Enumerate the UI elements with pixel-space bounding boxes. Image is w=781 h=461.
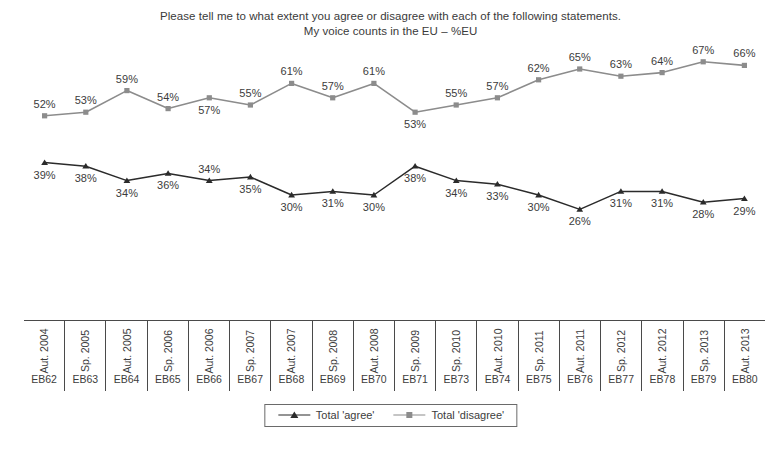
data-label: 38% xyxy=(75,172,97,184)
x-axis-wave-label: Sp. 2005 xyxy=(79,325,91,377)
data-point-marker xyxy=(165,170,172,176)
x-axis-eb-code: EB66 xyxy=(189,373,229,385)
x-axis-wave-label: Aut. 2004 xyxy=(38,325,50,377)
data-label: 65% xyxy=(569,51,591,63)
x-axis-eb-code: EB69 xyxy=(313,373,353,385)
data-label: 62% xyxy=(527,62,549,74)
x-axis-wave-label: Aut. 2005 xyxy=(121,325,133,377)
x-axis-eb-code: EB80 xyxy=(725,373,765,385)
data-label: 59% xyxy=(116,73,138,85)
data-label: 54% xyxy=(157,91,179,103)
legend-key-square-icon xyxy=(392,410,426,420)
data-point-marker xyxy=(248,102,253,107)
x-axis-column: Sp. 2012EB77 xyxy=(600,321,641,391)
data-point-marker xyxy=(83,110,88,115)
data-label: 31% xyxy=(610,197,632,209)
x-axis-column: Sp. 2010EB73 xyxy=(435,321,476,391)
data-label: 53% xyxy=(75,94,97,106)
data-label: 63% xyxy=(610,58,632,70)
data-point-marker xyxy=(660,70,665,75)
plot-area: 39%38%34%36%34%35%30%31%30%38%34%33%30%2… xyxy=(0,0,781,320)
chart-legend: Total 'agree' Total 'disagree' xyxy=(264,404,517,427)
data-label: 31% xyxy=(651,197,673,209)
x-axis-wave-label: Sp. 2012 xyxy=(615,325,627,377)
legend-item-agree[interactable]: Total 'agree' xyxy=(277,409,375,421)
series-line-agree xyxy=(45,163,745,210)
x-axis-wave-label: Aut. 2007 xyxy=(285,325,297,377)
x-axis-eb-code: EB75 xyxy=(519,373,559,385)
data-point-marker xyxy=(371,81,376,86)
x-axis-wave-label: Sp. 2006 xyxy=(162,325,174,377)
data-label: 34% xyxy=(198,163,220,175)
data-point-marker xyxy=(413,110,418,115)
x-axis-column: Sp. 2005EB63 xyxy=(64,321,105,391)
x-axis-column: Aut. 2005EB64 xyxy=(105,321,146,391)
data-label: 64% xyxy=(651,55,673,67)
x-axis-column: Sp. 2007EB67 xyxy=(229,321,270,391)
data-label: 38% xyxy=(404,172,426,184)
x-axis-eb-code: EB64 xyxy=(106,373,146,385)
x-axis-eb-code: EB67 xyxy=(230,373,270,385)
data-point-marker xyxy=(536,77,541,82)
x-axis-wave-label: Sp. 2011 xyxy=(533,325,545,377)
x-axis-eb-code: EB62 xyxy=(24,373,64,385)
data-label: 30% xyxy=(280,201,302,213)
data-point-marker xyxy=(330,95,335,100)
legend-key-triangle-icon xyxy=(277,410,311,420)
x-axis-eb-code: EB71 xyxy=(395,373,435,385)
x-axis-eb-code: EB73 xyxy=(436,373,476,385)
data-label: 36% xyxy=(157,179,179,191)
data-label: 34% xyxy=(116,187,138,199)
series-line-disagree xyxy=(45,62,745,116)
data-label: 30% xyxy=(363,201,385,213)
chart-container: Please tell me to what extent you agree … xyxy=(0,0,781,461)
data-label: 55% xyxy=(445,87,467,99)
data-point-marker xyxy=(289,81,294,86)
data-label: 57% xyxy=(486,80,508,92)
x-axis-eb-code: EB68 xyxy=(271,373,311,385)
x-axis-eb-code: EB79 xyxy=(684,373,724,385)
x-axis-column: Aut. 2013EB80 xyxy=(724,321,765,391)
data-label: 39% xyxy=(33,169,55,181)
data-label: 34% xyxy=(445,187,467,199)
data-label: 31% xyxy=(322,197,344,209)
legend-label-agree: Total 'agree' xyxy=(316,409,375,421)
data-point-marker xyxy=(618,74,623,79)
data-point-marker xyxy=(42,113,47,118)
x-axis-wave-label: Aut. 2010 xyxy=(492,325,504,377)
data-label: 61% xyxy=(363,65,385,77)
x-axis-eb-code: EB63 xyxy=(65,373,105,385)
data-point-marker xyxy=(495,95,500,100)
data-label: 66% xyxy=(733,47,755,59)
x-axis-wave-label: Aut. 2006 xyxy=(203,325,215,377)
x-axis-eb-code: EB65 xyxy=(148,373,188,385)
x-axis-column: Aut. 2006EB66 xyxy=(188,321,229,391)
data-label: 52% xyxy=(33,98,55,110)
x-axis-column: Aut. 2011EB76 xyxy=(559,321,600,391)
data-label: 35% xyxy=(239,183,261,195)
data-label: 61% xyxy=(280,65,302,77)
x-axis-column: Sp. 2013EB79 xyxy=(683,321,724,391)
data-label: 33% xyxy=(486,190,508,202)
data-point-marker xyxy=(742,63,747,68)
legend-item-disagree[interactable]: Total 'disagree' xyxy=(392,409,504,421)
x-axis-column: Sp. 2011EB75 xyxy=(518,321,559,391)
x-axis-column: Sp. 2006EB65 xyxy=(147,321,188,391)
legend-label-disagree: Total 'disagree' xyxy=(431,409,504,421)
x-axis-wave-label: Aut. 2013 xyxy=(739,325,751,377)
data-label: 57% xyxy=(322,80,344,92)
x-axis-column: Sp. 2008EB69 xyxy=(312,321,353,391)
x-axis-column: Sp. 2009EB71 xyxy=(394,321,435,391)
x-axis-column: Aut. 2010EB74 xyxy=(476,321,517,391)
x-axis-column: Aut. 2004EB62 xyxy=(24,321,64,391)
data-point-marker xyxy=(454,102,459,107)
x-axis-table: Aut. 2004EB62Sp. 2005EB63Aut. 2005EB64Sp… xyxy=(24,320,765,390)
data-point-marker xyxy=(412,163,419,169)
data-label: 67% xyxy=(692,44,714,56)
data-label: 30% xyxy=(527,201,549,213)
data-point-marker xyxy=(207,95,212,100)
x-axis-eb-code: EB78 xyxy=(642,373,682,385)
x-axis-wave-label: Sp. 2010 xyxy=(450,325,462,377)
x-axis-wave-label: Aut. 2012 xyxy=(656,325,668,377)
x-axis-column: Aut. 2012EB78 xyxy=(641,321,682,391)
